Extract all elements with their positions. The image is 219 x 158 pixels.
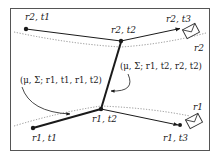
right-annotation-arrow <box>111 74 130 91</box>
edge-r1t1-r1t2 <box>33 109 101 128</box>
label-r1-t3: r1, t3 <box>163 134 188 143</box>
node-r2-t1 <box>24 27 28 31</box>
annotation-left: (μ, Σ; r1, t1, r1, t2) <box>20 76 102 85</box>
label-r2-t3: r2, t3 <box>166 15 191 24</box>
label-receiver-r2: r2 <box>194 44 204 53</box>
node-r1-t1 <box>31 126 35 130</box>
left-annotation-arrow <box>22 87 70 114</box>
label-receiver-r1: r1 <box>193 103 203 112</box>
envelope-icon <box>182 23 199 38</box>
edge-r2t1-r2t2 <box>26 29 121 41</box>
label-r1-t1: r1, t1 <box>32 134 57 143</box>
label-r1-t2: r1, t2 <box>92 115 117 124</box>
node-r2-t2 <box>119 39 123 43</box>
edge-r1t2-r2t2 <box>101 42 121 109</box>
node-r1-t2 <box>99 107 103 111</box>
trajectory-diagram: r2, t1 r2, t2 r2, t3 r2 r1 r1, t2 r1, t1… <box>0 0 219 158</box>
label-r2-t1: r2, t1 <box>25 13 50 22</box>
label-r2-t2: r2, t2 <box>111 26 136 35</box>
annotation-right: (μ, Σ; r1, t2, r2, t2) <box>120 62 202 71</box>
node-r1-t3 <box>178 123 182 127</box>
